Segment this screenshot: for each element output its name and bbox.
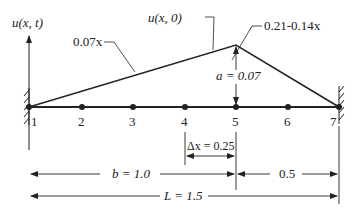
amplitude-label: a = 0.07 <box>216 68 261 83</box>
svg-text:3: 3 <box>129 114 136 129</box>
remainder-dimension <box>238 126 339 204</box>
node-labels: 1 2 3 4 5 6 7 <box>31 114 337 129</box>
svg-text:6: 6 <box>284 114 291 129</box>
plucked-string-diagram: 1 2 3 4 5 6 7 u(x, t) u(x, 0) 0.07x 0.21… <box>0 0 358 214</box>
right-segment-label: 0.21-0.14x <box>264 18 321 33</box>
length-label: L = 1.5 <box>163 188 203 203</box>
initial-shape-label: u(x, 0) <box>148 10 182 25</box>
svg-text:5: 5 <box>232 114 239 129</box>
left-segment-label: 0.07x <box>73 34 103 49</box>
b-label: b = 1.0 <box>112 166 151 181</box>
svg-text:4: 4 <box>181 114 188 129</box>
leader-lines <box>104 17 262 72</box>
svg-text:1: 1 <box>31 114 38 129</box>
y-axis-label: u(x, t) <box>12 15 43 30</box>
initial-displacement-curve <box>29 45 339 107</box>
dx-label: Δx = 0.25 <box>187 139 234 153</box>
remainder-label: 0.5 <box>279 166 295 181</box>
svg-text:7: 7 <box>330 114 337 129</box>
svg-text:2: 2 <box>78 114 85 129</box>
